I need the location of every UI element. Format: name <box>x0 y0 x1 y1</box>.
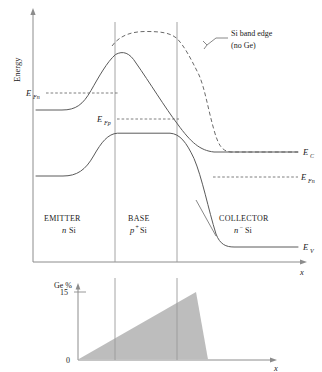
svg-text:Fn: Fn <box>307 178 315 184</box>
svg-text:V: V <box>310 248 315 254</box>
svg-text:E: E <box>302 242 309 252</box>
svg-text:Si: Si <box>245 226 252 235</box>
ec-label: E C <box>302 147 315 159</box>
si-band-edge-curve <box>112 32 298 153</box>
svg-text:n: n <box>234 225 238 235</box>
si-band-edge-leader <box>203 38 228 49</box>
svg-text:p: p <box>129 225 134 235</box>
ge-y-axis <box>76 283 81 360</box>
si-band-edge-annotation: Si band edge (no Ge) <box>231 29 273 50</box>
region-separator-diagonal <box>196 200 216 236</box>
svg-text:E: E <box>302 147 309 157</box>
efn-emitter-label: E Fn <box>25 88 40 100</box>
region-label-base: BASE p + Si <box>128 214 150 235</box>
svg-text:n: n <box>62 225 66 235</box>
band-diagram-figure: Energy E Fn E Fp E C E Fn E V Si band ed… <box>0 0 322 372</box>
ge-x-axis-label: x <box>273 363 278 372</box>
ge-tick-label-0: 0 <box>66 356 70 365</box>
efp-base-label: E Fp <box>96 114 111 126</box>
svg-text:COLLECTOR: COLLECTOR <box>219 214 269 223</box>
ge-tick-label-15: 15 <box>60 288 68 297</box>
svg-text:E: E <box>300 172 307 182</box>
ge-profile-area <box>78 292 208 359</box>
svg-text:(no Ge): (no Ge) <box>231 41 256 50</box>
band-diagram-svg: Energy E Fn E Fp E C E Fn E V Si band ed… <box>0 0 322 372</box>
conduction-band-curve <box>36 53 298 152</box>
x-axis <box>33 259 307 264</box>
energy-axis <box>30 8 35 262</box>
svg-text:Si: Si <box>69 226 76 235</box>
svg-text:−: − <box>239 224 243 230</box>
svg-text:BASE: BASE <box>128 214 150 223</box>
svg-text:+: + <box>135 224 139 230</box>
svg-text:Fn: Fn <box>32 94 40 100</box>
svg-text:C: C <box>310 153 315 159</box>
x-axis-label-top: x <box>299 267 304 277</box>
region-label-emitter: EMITTER n Si <box>44 214 81 235</box>
svg-text:E: E <box>96 114 103 124</box>
ev-label: E V <box>302 242 315 254</box>
svg-text:Si band edge: Si band edge <box>231 29 273 38</box>
efn-collector-label: E Fn <box>300 172 315 184</box>
energy-axis-label: Energy <box>12 57 22 82</box>
svg-text:E: E <box>25 88 32 98</box>
svg-text:Si: Si <box>140 226 147 235</box>
svg-text:Fp: Fp <box>103 120 111 126</box>
region-label-collector: COLLECTOR n − Si <box>219 214 269 235</box>
svg-text:EMITTER: EMITTER <box>44 214 81 223</box>
